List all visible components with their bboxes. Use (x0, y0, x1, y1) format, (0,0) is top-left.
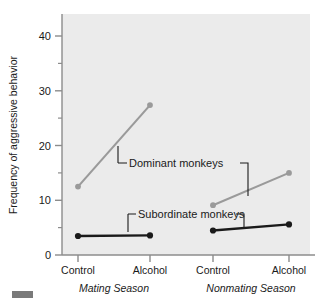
y-tick-label-40: 40 (39, 30, 51, 42)
subordinate-monkeys-label: Subordinate monkeys (138, 208, 245, 220)
y-tick-label-20: 20 (39, 140, 51, 152)
x-tick-label-nonmating-control: Control (196, 264, 230, 276)
y-axis-major-ticks (55, 36, 62, 255)
x-axis-ticks (78, 255, 289, 262)
figure-root: 40 30 20 10 0 Frequency of aggressive be… (0, 0, 321, 306)
subordinate-point-mating-alcohol (147, 232, 153, 238)
subordinate-point-nonmating-alcohol (286, 221, 292, 227)
dominant-monkeys-label: Dominant monkeys (129, 157, 224, 169)
y-tick-label-0: 0 (45, 249, 51, 261)
x-group-label-mating-season: Mating Season (79, 282, 149, 294)
figure-marker-swatch (12, 291, 33, 298)
x-group-label-nonmating-season: Nonmating Season (206, 282, 295, 294)
subordinate-point-nonmating-control (210, 227, 216, 233)
dominant-point-mating-control (75, 184, 81, 190)
x-tick-label-nonmating-alcohol: Alcohol (272, 264, 306, 276)
y-tick-label-10: 10 (39, 194, 51, 206)
subordinate-point-mating-control (75, 233, 81, 239)
dominant-point-nonmating-alcohol (286, 170, 292, 176)
y-tick-label-30: 30 (39, 85, 51, 97)
x-tick-label-mating-alcohol: Alcohol (133, 264, 167, 276)
dominant-point-mating-alcohol (147, 102, 153, 108)
x-tick-label-mating-control: Control (61, 264, 95, 276)
aggressive-behavior-line-chart: 40 30 20 10 0 Frequency of aggressive be… (0, 0, 321, 306)
y-axis-title: Frequency of aggressive behavior (7, 55, 19, 214)
subordinate-line-mating (78, 235, 150, 236)
